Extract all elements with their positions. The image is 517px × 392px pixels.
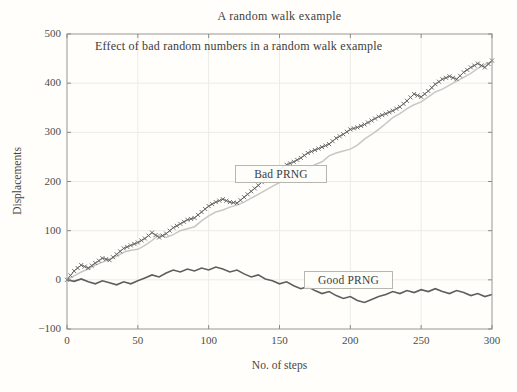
y-tick-label: 500 <box>21 27 61 39</box>
y-tick-label: 100 <box>21 224 61 236</box>
x-tick-label: 0 <box>52 334 82 346</box>
x-tick-label: 300 <box>477 334 507 346</box>
good-prng-label: Good PRNG <box>304 271 393 289</box>
bad-prng-label: Bad PRNG <box>235 165 327 183</box>
x-tick-label: 250 <box>406 334 436 346</box>
x-tick-label: 150 <box>265 334 295 346</box>
x-tick-label: 50 <box>123 334 153 346</box>
x-tick-label: 200 <box>335 334 365 346</box>
x-tick-label: 100 <box>194 334 224 346</box>
annotation-text: Effect of bad random numbers in a random… <box>95 39 382 54</box>
y-tick-label: 200 <box>21 175 61 187</box>
y-tick-label: −100 <box>21 322 61 334</box>
y-tick-label: 0 <box>21 273 61 285</box>
figure: A random walk example Effect of bad rand… <box>0 0 517 392</box>
x-axis-label: No. of steps <box>67 359 492 371</box>
y-tick-label: 400 <box>21 76 61 88</box>
y-tick-label: 300 <box>21 125 61 137</box>
